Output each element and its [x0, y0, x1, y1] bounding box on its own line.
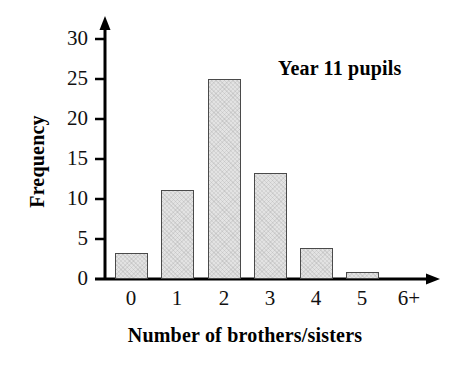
x-tick-label-4: 4 — [296, 288, 336, 309]
y-tick-label-0: 0 — [48, 268, 88, 289]
bar-category-2 — [208, 79, 241, 279]
x-tick-label-2: 2 — [204, 288, 244, 309]
y-tick-label-10: 10 — [48, 188, 88, 209]
x-tick-label-6plus: 6+ — [389, 288, 429, 309]
y-axis-title: Frequency — [26, 62, 49, 262]
y-tick-label-15: 15 — [48, 148, 88, 169]
bar-category-0 — [115, 253, 148, 279]
bar-category-5 — [346, 272, 379, 279]
x-tick-label-5: 5 — [342, 288, 382, 309]
chart-annotation-year-11-pupils: Year 11 pupils — [278, 57, 402, 80]
y-tick-label-25: 25 — [48, 68, 88, 89]
y-tick-label-30: 30 — [48, 28, 88, 49]
bar-chart-figure: 30 25 20 15 10 5 0 0 1 2 3 4 5 6+ Number… — [0, 0, 460, 372]
bar-category-1 — [161, 190, 194, 279]
x-axis-arrow-icon — [426, 274, 440, 285]
bar-category-3 — [254, 173, 287, 279]
bar-category-4 — [300, 248, 333, 279]
x-tick-label-0: 0 — [111, 288, 151, 309]
x-tick-label-3: 3 — [250, 288, 290, 309]
x-tick-label-1: 1 — [157, 288, 197, 309]
plot-area: 30 25 20 15 10 5 0 0 1 2 3 4 5 6+ Number… — [0, 0, 460, 372]
y-axis-arrow-icon — [100, 16, 111, 30]
x-axis-title: Number of brothers/sisters — [60, 324, 430, 347]
y-tick-label-20: 20 — [48, 108, 88, 129]
y-tick-label-5: 5 — [48, 228, 88, 249]
